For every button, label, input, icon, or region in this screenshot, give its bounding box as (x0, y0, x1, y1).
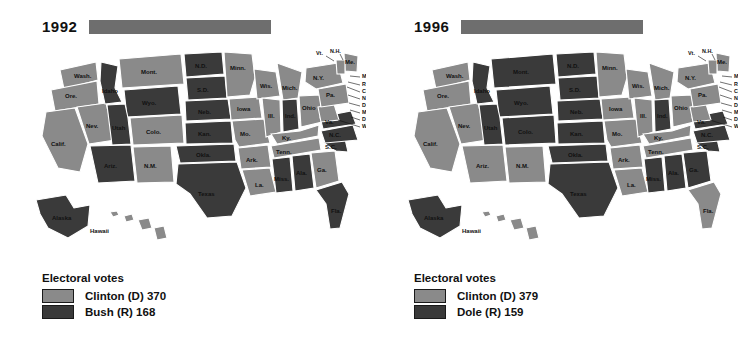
legend-1992: Electoral votes Clinton (D) 370 Bush (R)… (42, 272, 166, 321)
svg-text:Fla.: Fla. (703, 208, 714, 214)
svg-text:Miss.: Miss. (274, 176, 289, 182)
svg-text:Alaska: Alaska (424, 215, 444, 221)
svg-text:Iowa: Iowa (609, 106, 623, 112)
svg-text:Vt.: Vt. (316, 50, 323, 56)
svg-text:Pa.: Pa. (698, 92, 707, 98)
state-hawaii-3[interactable] (138, 218, 152, 230)
svg-text:Kan.: Kan. (570, 131, 583, 137)
state-minn[interactable] (596, 52, 627, 97)
states-layer (36, 52, 358, 240)
svg-text:Colo.: Colo. (518, 129, 533, 135)
svg-text:Pa.: Pa. (326, 92, 335, 98)
year-bar (461, 20, 643, 34)
svg-text:Wis.: Wis. (632, 83, 645, 89)
svg-text:Ore.: Ore. (437, 93, 449, 99)
svg-text:Md.: Md. (734, 109, 738, 115)
state-hawaii-2[interactable] (496, 214, 506, 222)
election-maps-figure: 1992 (0, 0, 744, 347)
svg-text:Mont.: Mont. (513, 69, 529, 75)
state-hawaii[interactable] (482, 211, 491, 217)
svg-text:Minn.: Minn. (602, 65, 618, 71)
svg-text:Va.: Va. (697, 119, 706, 125)
svg-text:Ky.: Ky. (654, 135, 663, 141)
state-hawaii-4[interactable] (526, 226, 539, 240)
svg-text:Idaho: Idaho (102, 88, 118, 94)
svg-text:S.C.: S.C. (697, 144, 709, 150)
svg-text:Me.: Me. (345, 59, 355, 65)
svg-text:Calif.: Calif. (51, 141, 66, 147)
svg-text:Me.: Me. (717, 59, 727, 65)
svg-text:Neb.: Neb. (570, 109, 583, 115)
us-map-svg: Wash. Ore. Calif. Nev. Idaho Mont. Wyo. … (18, 48, 366, 253)
svg-text:Md.: Md. (362, 109, 366, 115)
state-texas[interactable] (176, 162, 246, 218)
legend-swatch-republican (42, 305, 74, 319)
state-texas[interactable] (548, 162, 618, 218)
legend-row-republican: Dole (R) 159 (414, 305, 538, 319)
state-miss[interactable] (272, 157, 293, 193)
svg-text:N.H.: N.H. (330, 48, 341, 54)
svg-text:Mo.: Mo. (240, 131, 251, 137)
svg-text:Alaska: Alaska (52, 215, 72, 221)
us-map-svg: Wash. Ore. Calif. Nev. Idaho Mont. Wyo. … (390, 48, 738, 253)
state-mich[interactable] (649, 63, 674, 100)
state-minn[interactable] (224, 52, 255, 97)
svg-text:Wis.: Wis. (260, 83, 273, 89)
svg-text:Ore.: Ore. (65, 93, 77, 99)
state-idaho[interactable] (100, 62, 122, 104)
svg-text:Wash.: Wash. (446, 73, 464, 79)
svg-text:Del.: Del. (362, 102, 366, 108)
svg-text:Mich.: Mich. (282, 85, 298, 91)
svg-text:Va.: Va. (325, 119, 334, 125)
svg-text:Okla.: Okla. (196, 152, 211, 158)
legend-swatch-republican (414, 305, 446, 319)
svg-text:R.I.: R.I. (362, 81, 366, 87)
states-layer (408, 52, 730, 240)
svg-text:Wyo.: Wyo. (514, 100, 529, 106)
svg-text:Nev.: Nev. (458, 123, 471, 129)
state-fla[interactable] (688, 182, 721, 229)
svg-text:Idaho: Idaho (474, 88, 490, 94)
svg-text:Texas: Texas (198, 191, 215, 197)
state-fla[interactable] (316, 182, 349, 229)
svg-text:N.D.: N.D. (567, 63, 579, 69)
svg-text:Mo.: Mo. (612, 131, 623, 137)
legend-label-republican: Bush (R) 168 (85, 306, 155, 318)
svg-text:D.C.: D.C. (362, 116, 366, 122)
svg-text:N.H.: N.H. (702, 48, 713, 54)
state-idaho[interactable] (472, 62, 494, 104)
state-miss[interactable] (644, 157, 665, 193)
state-hawaii-2[interactable] (124, 214, 134, 222)
us-map-1996: Wash. Ore. Calif. Nev. Idaho Mont. Wyo. … (390, 48, 738, 253)
svg-text:S.D.: S.D. (569, 87, 581, 93)
svg-text:N.Y.: N.Y. (685, 75, 696, 81)
map-panel-1996: 1996 (372, 0, 744, 347)
svg-text:Wash.: Wash. (74, 73, 92, 79)
year-label: 1992 (42, 18, 77, 35)
state-vt-nh[interactable] (336, 60, 345, 74)
svg-text:Ind.: Ind. (657, 113, 668, 119)
state-hawaii-3[interactable] (510, 218, 524, 230)
svg-text:Ala.: Ala. (296, 170, 307, 176)
us-map-1992: Wash. Ore. Calif. Nev. Idaho Mont. Wyo. … (18, 48, 366, 253)
state-hawaii-4[interactable] (154, 226, 167, 240)
svg-text:Del.: Del. (734, 102, 738, 108)
svg-text:N.M.: N.M. (516, 163, 529, 169)
state-hawaii[interactable] (110, 211, 119, 217)
svg-text:Ohio: Ohio (674, 105, 688, 111)
svg-text:Mont.: Mont. (141, 69, 157, 75)
state-vt-nh[interactable] (708, 60, 717, 74)
svg-text:Conn.: Conn. (734, 88, 738, 94)
svg-text:Nev.: Nev. (86, 123, 99, 129)
svg-text:Conn.: Conn. (362, 88, 366, 94)
svg-text:Ga.: Ga. (317, 167, 327, 173)
svg-text:Ariz.: Ariz. (104, 163, 117, 169)
svg-text:Hawaii: Hawaii (462, 228, 481, 234)
year-header-1996: 1996 (414, 18, 643, 35)
svg-text:Vt.: Vt. (688, 50, 695, 56)
svg-text:Okla.: Okla. (568, 152, 583, 158)
svg-text:R.I.: R.I. (734, 81, 738, 87)
svg-text:N.D.: N.D. (195, 63, 207, 69)
state-mich[interactable] (277, 63, 302, 100)
legend-title: Electoral votes (414, 272, 538, 284)
